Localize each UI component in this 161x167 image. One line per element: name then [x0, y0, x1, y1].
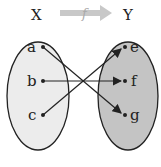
element-c: c [28, 106, 36, 124]
element-g: g [130, 106, 140, 124]
function-diagram: f X Y a b c e f g [0, 0, 161, 167]
element-b: b [27, 72, 37, 90]
codomain-set-y [98, 42, 158, 150]
point-f [123, 79, 127, 83]
function-arrow: f [60, 5, 112, 21]
codomain-label: Y [122, 6, 134, 24]
point-e [123, 45, 127, 49]
domain-set-x [7, 42, 69, 150]
domain-label: X [31, 6, 42, 24]
element-a: a [27, 38, 36, 56]
point-g [123, 113, 127, 117]
element-e: e [130, 38, 139, 56]
